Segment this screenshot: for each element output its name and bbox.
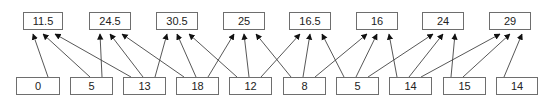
edge-arrow xyxy=(389,34,397,77)
input-node: 14 xyxy=(496,77,538,95)
edge-arrow xyxy=(110,34,143,77)
input-node-label: 14 xyxy=(511,81,523,92)
output-node: 24.5 xyxy=(89,12,131,30)
edge-arrow xyxy=(303,34,310,77)
input-node: 12 xyxy=(229,77,272,95)
input-node: 5 xyxy=(336,77,379,95)
output-node-label: 16 xyxy=(371,16,383,27)
output-node-label: 24 xyxy=(437,16,449,27)
output-node: 29 xyxy=(489,12,531,30)
input-node: 8 xyxy=(283,77,326,95)
input-node-label: 15 xyxy=(458,81,470,92)
output-node-label: 25 xyxy=(238,16,250,27)
edge-arrow xyxy=(100,34,102,77)
input-node-label: 8 xyxy=(301,81,307,92)
input-node: 5 xyxy=(70,77,113,95)
input-node-label: 13 xyxy=(138,81,150,92)
edge-arrow xyxy=(451,34,455,77)
edge-arrow xyxy=(122,34,184,77)
edge-arrow xyxy=(261,34,300,77)
output-node-label: 16.5 xyxy=(299,16,320,27)
edge-arrow xyxy=(463,34,510,77)
input-node: 13 xyxy=(123,77,166,95)
input-node-label: 12 xyxy=(244,81,256,92)
input-node-label: 18 xyxy=(191,81,203,92)
input-node-label: 14 xyxy=(404,81,416,92)
output-node-label: 30.5 xyxy=(166,16,187,27)
input-node-label: 5 xyxy=(354,81,360,92)
output-node-label: 29 xyxy=(504,16,516,27)
edge-arrow xyxy=(504,34,522,77)
output-node-label: 24.5 xyxy=(99,16,120,27)
edge-arrow xyxy=(368,34,433,77)
edge-arrow xyxy=(177,34,196,77)
sliding-window-diagram: 11.524.530.52516.5162429 051318128514151… xyxy=(0,0,553,104)
input-node: 15 xyxy=(443,77,486,95)
edge-arrow xyxy=(409,34,443,77)
output-node: 25 xyxy=(223,12,265,30)
input-node-label: 5 xyxy=(88,81,94,92)
output-node: 16.5 xyxy=(289,12,331,30)
output-node: 16 xyxy=(356,12,398,30)
output-node: 30.5 xyxy=(156,12,198,30)
input-node: 0 xyxy=(16,77,60,95)
output-node-label: 11.5 xyxy=(33,16,54,27)
edge-arrow xyxy=(155,34,167,77)
edge-arrow xyxy=(33,34,48,77)
input-node: 18 xyxy=(176,77,219,95)
input-node: 14 xyxy=(389,77,432,95)
edge-arrow xyxy=(244,34,249,77)
output-node: 11.5 xyxy=(23,12,63,30)
edge-arrow xyxy=(256,34,291,77)
edge-arrow xyxy=(421,34,500,77)
output-node: 24 xyxy=(422,12,464,30)
input-node-label: 0 xyxy=(35,81,41,92)
